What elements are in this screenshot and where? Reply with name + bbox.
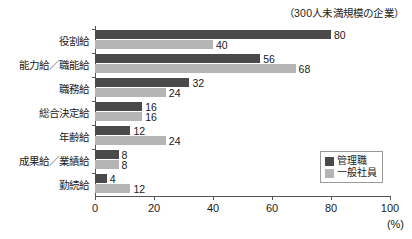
x-axis-tick [331,196,332,200]
bar-value-label: 40 [216,39,228,50]
bar-value-label: 4 [110,173,116,184]
bar-manager: 8 [95,150,119,159]
category-label: 成果給／業績給 [19,149,89,173]
legend-swatch-icon [325,169,334,178]
x-axis-tick [95,196,96,200]
bar-manager: 12 [95,126,130,135]
x-axis-tick [272,196,273,200]
bar-group: 役割給8040 [95,29,390,53]
bar-value-label: 24 [169,135,181,146]
legend-item: 管理職 [325,155,377,167]
x-axis-tick [390,196,391,200]
x-axis-tick [154,196,155,200]
bar-value-label: 80 [334,29,346,40]
bar-manager: 4 [95,174,107,183]
bar-general: 24 [95,88,166,97]
category-label: 能力給／職能給 [19,53,89,77]
x-axis-tick [213,196,214,200]
bar-general: 12 [95,184,130,193]
bar-value-label: 12 [133,183,145,194]
legend-item: 一般社員 [325,167,377,179]
x-axis-unit-label: (%) [387,218,404,230]
bar-general: 40 [95,40,213,49]
bar-manager: 56 [95,54,260,63]
category-label: 総合決定給 [39,101,89,125]
bar-group: 能力給／職能給5668 [95,53,390,77]
x-axis-tick-label: 60 [266,202,278,214]
x-axis-tick-label: 100 [381,202,399,214]
category-label: 役割給 [59,29,89,53]
x-axis-tick-label: 20 [148,202,160,214]
chart-legend: 管理職一般社員 [320,151,383,183]
bar-group: 職務給3224 [95,77,390,101]
bar-chart: （300人未満規模の企業） 役割給8040能力給／職能給5668職務給3224総… [0,0,412,239]
bar-group: 総合決定給1616 [95,101,390,125]
bar-value-label: 32 [192,77,204,88]
bar-general: 68 [95,64,296,73]
bar-manager: 80 [95,30,331,39]
bar-value-label: 24 [169,87,181,98]
bar-value-label: 8 [122,159,128,170]
legend-swatch-icon [325,157,334,166]
legend-label: 管理職 [337,156,367,166]
chart-title: （300人未満規模の企業） [284,5,404,20]
bar-general: 16 [95,112,142,121]
category-label: 勤続給 [59,173,89,197]
bar-value-label: 12 [133,125,145,136]
x-axis-tick-label: 80 [325,202,337,214]
bar-general: 24 [95,136,166,145]
x-axis-tick-label: 40 [207,202,219,214]
bar-value-label: 68 [299,63,311,74]
bar-value-label: 16 [145,111,157,122]
category-label: 年齢給 [59,125,89,149]
bar-group: 年齢給1224 [95,125,390,149]
category-label: 職務給 [59,77,89,101]
bar-manager: 16 [95,102,142,111]
bar-value-label: 56 [263,53,275,64]
x-axis-tick-label: 0 [92,202,98,214]
bar-general: 8 [95,160,119,169]
legend-label: 一般社員 [337,168,377,178]
